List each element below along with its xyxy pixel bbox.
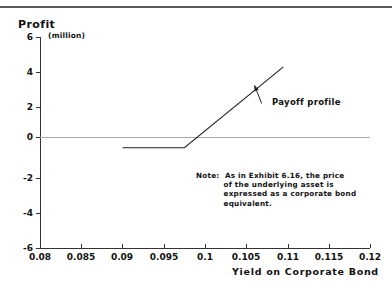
figure-note: Note: As in Exhibit 6.16, the price of t… xyxy=(196,171,356,208)
payoff-profile-label: Payoff profile xyxy=(272,97,341,107)
plot-area xyxy=(0,0,392,289)
payoff-profile-line xyxy=(123,67,284,148)
x-axis-title: Yield on Corporate Bond xyxy=(232,266,379,277)
note-body: As in Exhibit 6.16, the price of the und… xyxy=(196,171,356,208)
note-label: Note: xyxy=(196,171,219,180)
payoff-label-arrowhead xyxy=(254,85,258,91)
chart-figure: Profit (million) 6420-2-4-6 0.080.0850.0… xyxy=(0,0,392,289)
